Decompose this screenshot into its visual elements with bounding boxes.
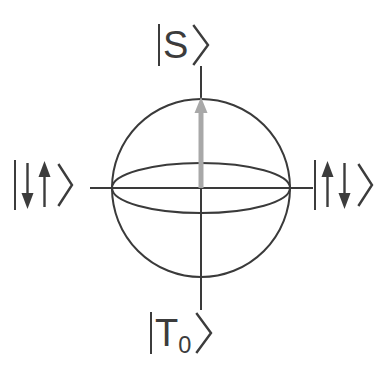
spin-pair-up-down: [319, 159, 353, 211]
spin-up-arrow-icon: [319, 159, 336, 211]
spin-pair-down-up: [19, 159, 53, 211]
spin-up-arrow-icon: [36, 159, 53, 211]
state-label-singlet: S: [158, 18, 212, 72]
spin-down-arrow-icon: [19, 159, 36, 211]
state-label-triplet-zero-subscript: 0: [178, 332, 191, 358]
ket-vertical-bar-icon: [150, 312, 152, 354]
ket-angle-bracket-icon: [191, 23, 212, 67]
ket-vertical-bar-icon: [158, 24, 160, 66]
ket-angle-bracket-icon: [194, 311, 215, 355]
state-label-down-up: [14, 155, 76, 215]
bloch-sphere-figure: S T0: [0, 0, 390, 371]
ket-vertical-bar-icon: [314, 160, 316, 210]
bloch-state-vector-arrow: [195, 97, 208, 188]
state-label-triplet-zero-text: T0: [155, 314, 191, 352]
spin-down-arrow-icon: [336, 159, 353, 211]
state-label-triplet-zero-body: T: [155, 312, 178, 354]
state-label-triplet-zero: T0: [150, 306, 215, 360]
state-label-up-down: [314, 155, 376, 215]
ket-vertical-bar-icon: [14, 160, 16, 210]
ket-angle-bracket-icon: [56, 160, 76, 210]
ket-angle-bracket-icon: [356, 160, 376, 210]
state-label-singlet-text: S: [163, 26, 188, 64]
